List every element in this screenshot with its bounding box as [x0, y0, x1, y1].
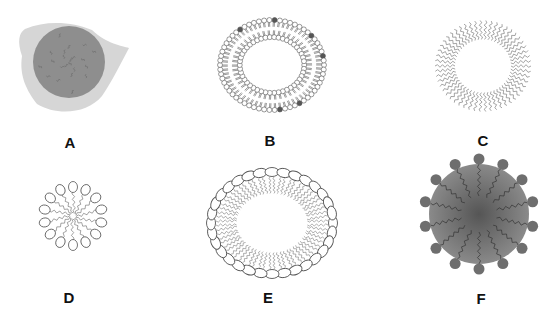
panel-label-e: E — [263, 289, 273, 306]
panel-label-f: F — [476, 290, 485, 307]
panel-label-d: D — [64, 289, 75, 306]
panel-label-a: A — [65, 134, 76, 151]
panel-label-c: C — [478, 132, 489, 149]
figure-canvas: A B C D E F — [0, 0, 556, 313]
panel-label-b: B — [265, 132, 276, 149]
panel-f-illustration — [0, 0, 556, 313]
